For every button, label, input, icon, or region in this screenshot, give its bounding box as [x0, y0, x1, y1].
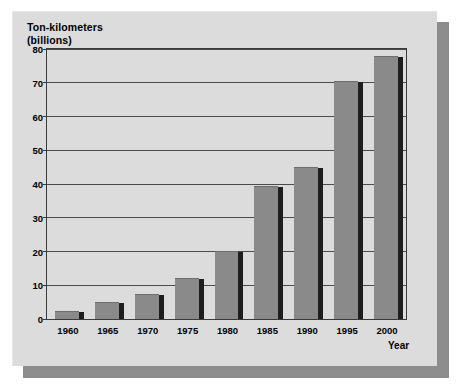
bar	[55, 311, 79, 319]
y-tick-mark	[43, 319, 47, 320]
y-tick-label: 80	[32, 44, 43, 55]
x-tick-label: 1995	[337, 325, 358, 336]
bar	[175, 278, 199, 319]
bar	[135, 294, 159, 319]
x-tick-label: 1985	[257, 325, 278, 336]
y-tick-mark	[43, 49, 47, 50]
y-tick-mark	[43, 184, 47, 185]
y-tick-label: 70	[32, 77, 43, 88]
x-tick-label: 1990	[297, 325, 318, 336]
bar	[95, 302, 119, 319]
gridline	[47, 49, 406, 50]
y-tick-mark	[43, 116, 47, 117]
chart-panel: Ton-kilometers (billions) 01020304050607…	[12, 11, 437, 366]
y-tick-mark	[43, 251, 47, 252]
x-tick-label: 1960	[57, 325, 78, 336]
bar-face	[135, 294, 159, 319]
y-tick-label: 60	[32, 111, 43, 122]
x-tick-label: 1980	[217, 325, 238, 336]
bar-face	[334, 81, 358, 319]
bar-face	[374, 56, 398, 319]
bar-face	[95, 302, 119, 319]
x-tick-label: 1965	[97, 325, 118, 336]
plot-area: 01020304050607080 1960196519701975198019…	[46, 48, 407, 320]
y-tick-mark	[43, 217, 47, 218]
bar	[215, 251, 239, 320]
bar-face	[175, 278, 199, 319]
bar-chart-figure: Ton-kilometers (billions) 01020304050607…	[0, 0, 459, 388]
y-tick-label: 40	[32, 179, 43, 190]
y-tick-label: 50	[32, 145, 43, 156]
x-axis-title: Year	[388, 340, 409, 351]
y-axis-title-line-1: Ton-kilometers	[27, 21, 103, 34]
x-tick-label: 1970	[137, 325, 158, 336]
bar	[374, 56, 398, 319]
y-tick-mark	[43, 150, 47, 151]
bar	[334, 81, 358, 319]
y-tick-label: 20	[32, 246, 43, 257]
y-tick-label: 30	[32, 212, 43, 223]
bar-face	[55, 311, 79, 319]
y-tick-mark	[43, 82, 47, 83]
x-tick-label: 2000	[376, 325, 397, 336]
y-tick-label: 10	[32, 280, 43, 291]
x-tick-label: 1975	[177, 325, 198, 336]
bar-face	[294, 167, 318, 319]
y-axis-title: Ton-kilometers (billions)	[27, 21, 103, 46]
y-tick-mark	[43, 285, 47, 286]
bar	[294, 167, 318, 319]
bar-face	[215, 251, 239, 320]
bar-face	[254, 186, 278, 319]
bar	[254, 186, 278, 319]
